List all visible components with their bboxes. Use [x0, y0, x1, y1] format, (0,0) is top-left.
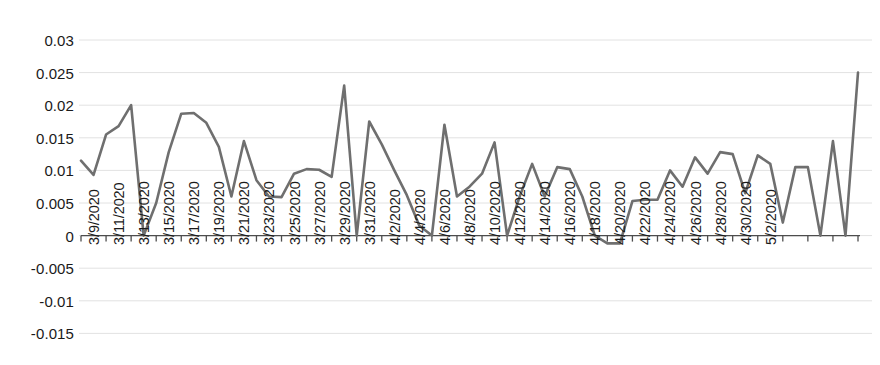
x-axis-tick-label: 3/13/2020: [137, 181, 152, 245]
x-axis-tick-label: 4/12/2020: [513, 181, 528, 245]
x-axis-tick-label: 3/27/2020: [313, 181, 328, 245]
x-axis-tick-label: 3/31/2020: [363, 181, 378, 245]
x-axis-tick-label: 4/28/2020: [714, 181, 729, 245]
x-axis-tick-label: 3/15/2020: [162, 181, 177, 245]
x-axis-tick-label: 4/10/2020: [488, 181, 503, 245]
x-axis-tick-label: 4/14/2020: [538, 181, 553, 245]
x-axis-tick-label: 3/19/2020: [212, 181, 227, 245]
x-axis-tick-label: 4/22/2020: [638, 181, 653, 245]
x-axis-tick-label: 4/8/2020: [463, 189, 478, 245]
x-axis-tick-label: 4/20/2020: [613, 181, 628, 245]
x-axis-tick-label: 4/24/2020: [663, 181, 678, 245]
line-chart: 0.030.0250.020.0150.010.0050-0.005-0.01-…: [0, 0, 880, 365]
x-axis-tick-label: 4/18/2020: [588, 181, 603, 245]
x-axis-tick-label: 4/6/2020: [438, 189, 453, 245]
x-axis-tick-label: 4/16/2020: [563, 181, 578, 245]
x-axis-tick-label: 3/25/2020: [288, 181, 303, 245]
x-axis-tick-label: 4/26/2020: [689, 181, 704, 245]
x-axis-tick-label: 3/17/2020: [187, 181, 202, 245]
x-axis-tick-label: 4/30/2020: [739, 181, 754, 245]
x-axis-tick-label: 3/29/2020: [338, 181, 353, 245]
x-axis-tick-label: 4/4/2020: [413, 189, 428, 245]
x-axis-tick-label: 3/21/2020: [237, 181, 252, 245]
x-axis-tick-label: 5/2/2020: [764, 189, 779, 245]
x-axis-tick-label: 3/11/2020: [112, 182, 127, 245]
x-axis-labels: 3/9/20203/11/20203/13/20203/15/20203/17/…: [0, 0, 880, 365]
x-axis-tick-label: 4/2/2020: [388, 189, 403, 245]
x-axis-tick-label: 3/9/2020: [87, 189, 102, 245]
x-axis-tick-label: 3/23/2020: [262, 181, 277, 245]
